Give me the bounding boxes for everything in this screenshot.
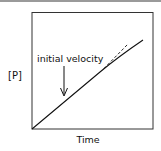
x-axis-label: Time	[75, 134, 99, 145]
y-axis-label: [P]	[8, 70, 22, 81]
initial-velocity-tangent	[104, 44, 128, 69]
plot-frame	[32, 13, 153, 130]
annotation-label: initial velocity	[37, 53, 104, 64]
progress-curve-diagram: initial velocity [P] Time	[0, 0, 161, 151]
